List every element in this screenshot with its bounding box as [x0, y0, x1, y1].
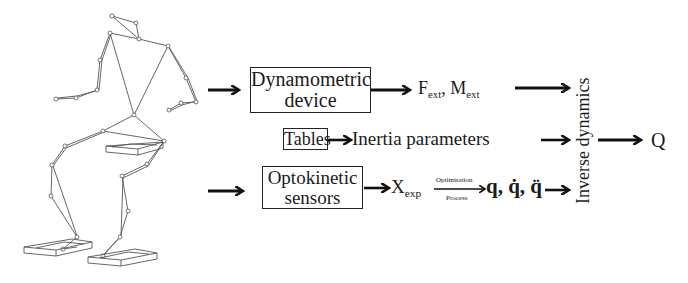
tables-label: Tables — [284, 129, 331, 149]
dynamometric-label-line1: Dynamometric — [251, 69, 370, 90]
external-forces-label: Fext, Mext — [418, 78, 479, 100]
optimisation-label: Optimisation — [436, 176, 473, 184]
xexp-label: Xexp — [391, 176, 421, 199]
dynamometric-label-line2: device — [251, 90, 370, 111]
optokinetic-label-line1: Optokinetic — [263, 168, 362, 188]
skeleton-figure — [51, 16, 197, 256]
force-plates — [24, 142, 163, 266]
inverse-dynamics-label: Inverse dynamics — [573, 78, 594, 204]
optokinetic-label-line2: sensors — [263, 188, 362, 208]
skeleton-joints — [49, 14, 198, 258]
optokinetic-sensors-box: Optokinetic sensors — [262, 166, 363, 209]
tables-box: Tables — [283, 128, 328, 150]
kinematics-label: q, q̇, q̈ — [486, 174, 542, 199]
output-q-label: Q — [651, 129, 665, 152]
process-label: Process — [446, 194, 467, 202]
inertia-parameters-label: Inertia parameters — [352, 128, 490, 150]
dynamometric-device-box: Dynamometric device — [250, 67, 371, 113]
